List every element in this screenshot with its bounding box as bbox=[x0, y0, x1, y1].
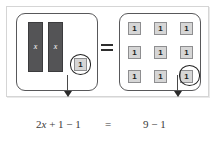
left-unit-tile-wrapper: 1 bbox=[74, 58, 87, 71]
equation-row: 2x + 1 − 1 = 9 − 1 bbox=[0, 118, 215, 134]
unit-tile-label: 1 bbox=[132, 25, 136, 33]
unit-tile: 1 bbox=[180, 22, 193, 35]
unit-tile-label: 1 bbox=[184, 49, 188, 57]
left-unit-tile-label: 1 bbox=[78, 61, 82, 69]
equation-left-rest: + 1 − 1 bbox=[46, 118, 80, 130]
x-bar-label-1: x bbox=[34, 43, 38, 51]
equals-icon bbox=[101, 43, 113, 52]
equation-left-side: 2x + 1 − 1 bbox=[36, 118, 81, 130]
right-circled-tile-ring bbox=[179, 65, 200, 86]
left-expression-panel: x x 1 bbox=[16, 13, 98, 91]
left-unit-tile: 1 bbox=[74, 58, 87, 71]
arrow-head-icon bbox=[174, 91, 182, 97]
x-bar-tile-2: x bbox=[48, 22, 63, 72]
unit-tile: 1 bbox=[154, 46, 167, 59]
equals-bar-top bbox=[101, 44, 113, 46]
unit-tile: 1 bbox=[180, 46, 193, 59]
unit-tile-label: 1 bbox=[132, 49, 136, 57]
balance-model-card: x x 1 1 1 1 1 1 1 bbox=[6, 6, 209, 97]
unit-tile: 1 bbox=[128, 22, 141, 35]
right-expression-panel: 1 1 1 1 1 1 1 1 1 bbox=[119, 13, 201, 91]
equation-equals-sign: = bbox=[105, 118, 111, 130]
x-bar-tile-1: x bbox=[28, 22, 43, 72]
x-bar-label-2: x bbox=[54, 43, 58, 51]
unit-tile: 1 bbox=[154, 22, 167, 35]
unit-tile-label: 1 bbox=[158, 49, 162, 57]
unit-tile-label: 1 bbox=[184, 25, 188, 33]
unit-tile-label: 1 bbox=[158, 73, 162, 81]
unit-tile-label: 1 bbox=[132, 73, 136, 81]
arrow-head-icon bbox=[64, 91, 72, 97]
unit-tile: 1 bbox=[128, 70, 141, 83]
equals-bar-bottom bbox=[101, 49, 113, 51]
unit-tile-label: 1 bbox=[158, 25, 162, 33]
unit-tile: 1 bbox=[154, 70, 167, 83]
equation-right-side: 9 − 1 bbox=[143, 118, 166, 130]
diagram-canvas: x x 1 1 1 1 1 1 1 bbox=[0, 0, 215, 143]
unit-tile: 1 bbox=[128, 46, 141, 59]
